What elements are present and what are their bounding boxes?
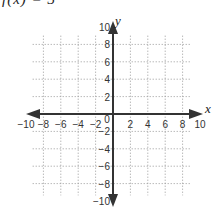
x-axis-left-arrow-icon	[26, 109, 40, 119]
x-tick-label: 8	[180, 119, 186, 130]
coordinate-grid: x y −10−8−6−4−20246810 108642−2−4−6−8−10	[0, 0, 218, 221]
x-tick-label: 10	[194, 119, 206, 130]
y-tick-label: 10	[99, 22, 111, 33]
x-tick-label: −8	[38, 119, 50, 130]
y-tick-label: −2	[99, 126, 111, 137]
x-tick-label: −4	[72, 119, 84, 130]
y-tick-label: 6	[104, 57, 110, 68]
y-tick-label: 8	[104, 39, 110, 50]
x-tick-label: 4	[145, 119, 151, 130]
y-tick-label: −10	[93, 196, 110, 207]
y-tick-label: −4	[99, 144, 111, 155]
x-tick-labels: −10−8−6−4−20246810	[18, 114, 206, 130]
x-axis-right-arrow-icon	[189, 109, 203, 119]
x-tick-label: 0	[104, 114, 110, 125]
y-axis-label: y	[113, 13, 121, 28]
x-tick-label: 2	[128, 119, 134, 130]
x-tick-label: −6	[55, 119, 67, 130]
y-tick-label: −8	[99, 179, 111, 190]
x-axis-label: x	[204, 101, 211, 116]
x-axis: x	[26, 101, 211, 119]
x-tick-label: −10	[18, 119, 35, 130]
y-tick-label: 4	[104, 74, 110, 85]
x-tick-label: 6	[162, 119, 168, 130]
y-tick-label: −6	[99, 161, 111, 172]
y-tick-label: 2	[104, 92, 110, 103]
